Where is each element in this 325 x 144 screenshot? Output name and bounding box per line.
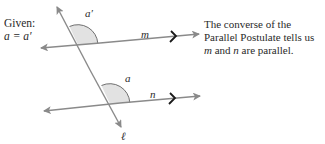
note-line-2: Parallel Postulate tells us [204,31,324,44]
note-line-1: The converse of the [204,18,324,31]
line-m-label: m [141,29,149,40]
angle-a-sector [102,84,130,104]
line-m [41,43,100,48]
note-var-m: m [204,44,212,56]
given-block: Given: a = a′ [4,17,35,43]
parallel-lines-diagram: Given: a = a′ a′ m a n ℓ The converse of… [0,0,325,144]
conclusion-note: The converse of the Parallel Postulate t… [204,18,324,57]
line-n-label: n [150,89,156,100]
angle-a-label: a [125,73,131,84]
given-equation: a = a′ [4,30,35,43]
angle-a-prime-sector [70,25,98,45]
given-title: Given: [4,17,35,30]
note-and: and [212,44,233,56]
angle-a-prime-label: a′ [85,8,93,19]
transversal-label: ℓ [121,131,126,142]
note-line-3: m and n are parallel. [204,44,324,57]
note-end: are parallel. [239,44,294,56]
